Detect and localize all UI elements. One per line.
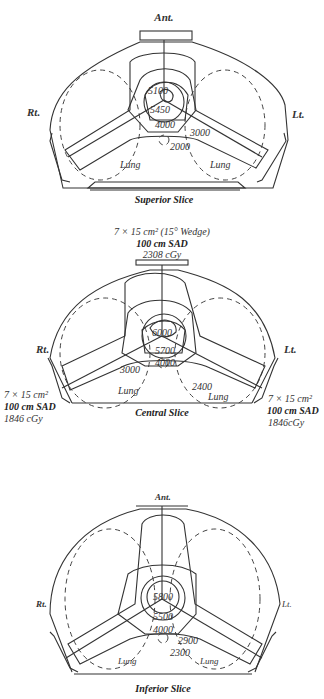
lt-label: Lt. [291, 108, 305, 120]
inferior-slice-diagram: Ant. Rt. Lt. 5800 5500 4000 2900 2300 Lu… [0, 464, 324, 699]
lung-label-right: Lung [117, 385, 139, 396]
lung-label-left: Lung [207, 391, 229, 402]
lung-label-left: Lung [209, 159, 231, 170]
panel-title: Central Slice [135, 407, 189, 418]
superior-slice-diagram: Ant. Rt. Lt. 5100 5450 4000 3000 2000 Lu… [0, 0, 324, 215]
rt-label: Rt. [35, 343, 49, 355]
isodose-label: 4000 [155, 357, 175, 368]
isodose-label: 5800 [153, 591, 173, 602]
isodose-label: 2300 [170, 647, 190, 658]
isodose-label: 5100 [148, 85, 168, 96]
lt-label: Lt. [283, 343, 297, 355]
lung-label-right: Lung [117, 656, 137, 666]
anterior-beam-block [136, 260, 188, 265]
panel-title: Inferior Slice [134, 683, 191, 694]
isodose-label: 4000 [155, 119, 175, 130]
lung-label-left: Lung [199, 656, 219, 666]
anterior-label: Ant. [154, 492, 171, 502]
lung-label-right: Lung [119, 159, 141, 170]
panel-title: Superior Slice [135, 194, 194, 205]
isodose-outer [68, 515, 262, 664]
anterior-label: Ant. [153, 11, 173, 23]
rpo-beam-dose: 1846 cGy [4, 413, 43, 425]
isodose-label: 5450 [150, 104, 170, 115]
rpo-beam-field: 7 × 15 cm² [4, 389, 48, 401]
isodose-label: 3000 [119, 364, 140, 375]
lpo-beam-sad: 100 cm SAD [267, 405, 319, 417]
anterior-beam-field: 7 × 15 cm² (15° Wedge) [0, 226, 324, 238]
isodose-label: 4000 [153, 624, 173, 635]
isodose-label: 3000 [189, 127, 210, 138]
rt-label: Rt. [26, 106, 40, 118]
isodose-label: 5500 [153, 611, 173, 622]
lt-label: Lt. [281, 599, 292, 609]
isodose-label: 6000 [152, 327, 172, 338]
isodose-label: 5700 [155, 345, 175, 356]
rpo-beam-sad: 100 cm SAD [4, 401, 56, 413]
lpo-beam-field: 7 × 15 cm² [268, 393, 312, 405]
anterior-beam-block [140, 31, 192, 40]
isodose-label: 2900 [178, 635, 198, 646]
isodose-label: 2000 [170, 141, 190, 152]
rt-label: Rt. [35, 599, 47, 609]
lpo-beam-dose: 1846cGy [268, 417, 304, 429]
